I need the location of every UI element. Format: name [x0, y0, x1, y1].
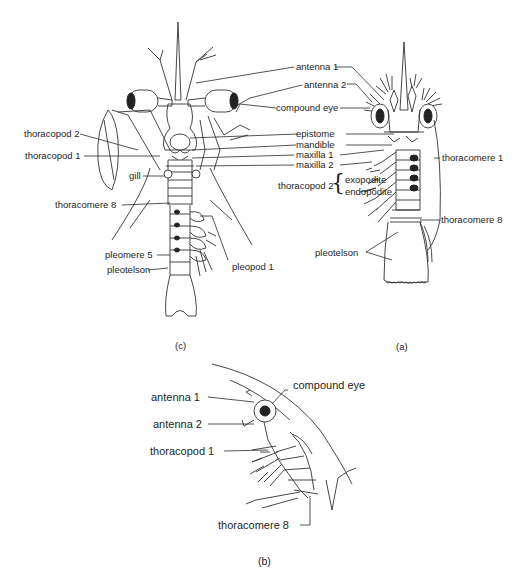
label-a-endopodite: endopodite: [345, 187, 392, 197]
label-c-thoracopod-1: thoracopod 1: [25, 151, 80, 161]
label-c-gill: gill: [129, 171, 141, 181]
label-c-pleomere-5: pleomere 5: [105, 250, 153, 260]
label-b-antenna-1: antenna 1: [151, 392, 200, 403]
label-b-thoracopod-1: thoracopod 1: [150, 446, 214, 457]
label-a-thoracopod-2: thoracopod 2: [278, 181, 333, 191]
brace-thoracopod-2: {: [331, 172, 345, 194]
label-c-pleotelson: pleotelson: [107, 265, 150, 275]
caption-b: (b): [258, 555, 271, 567]
label-epistome: epistome: [296, 129, 335, 139]
label-antenna-2: antenna 2: [304, 80, 346, 90]
label-c-pleopod-1: pleopod 1: [232, 262, 274, 272]
label-antenna-1: antenna 1: [296, 62, 338, 72]
label-compound-eye: compound eye: [276, 103, 338, 113]
label-a-pleotelson: pleotelson: [315, 248, 358, 258]
label-c-thoracopod-2: thoracopod 2: [24, 129, 79, 139]
specimen-a-drawing: [364, 42, 442, 283]
label-c-thoracomere-8: thoracomere 8: [55, 200, 116, 210]
diagram-canvas: [0, 0, 523, 585]
label-a-thoracomere-1: thoracomere 1: [442, 153, 503, 163]
label-b-compound-eye: compound eye: [293, 380, 365, 391]
caption-c: (c): [175, 340, 186, 351]
label-a-exopodite: exopodite: [345, 175, 386, 185]
label-b-antenna-2: antenna 2: [153, 419, 202, 430]
leader-lines: [80, 67, 440, 525]
label-a-thoracomere-8: thoracomere 8: [441, 215, 502, 225]
caption-a: (a): [396, 341, 408, 352]
label-maxilla-2: maxilla 2: [296, 160, 334, 170]
label-b-thoracomere-8: thoracomere 8: [218, 520, 289, 531]
